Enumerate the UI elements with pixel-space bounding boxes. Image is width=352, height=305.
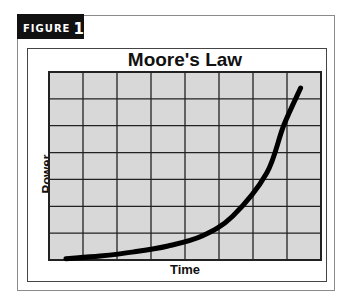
plot-area bbox=[0, 0, 352, 305]
